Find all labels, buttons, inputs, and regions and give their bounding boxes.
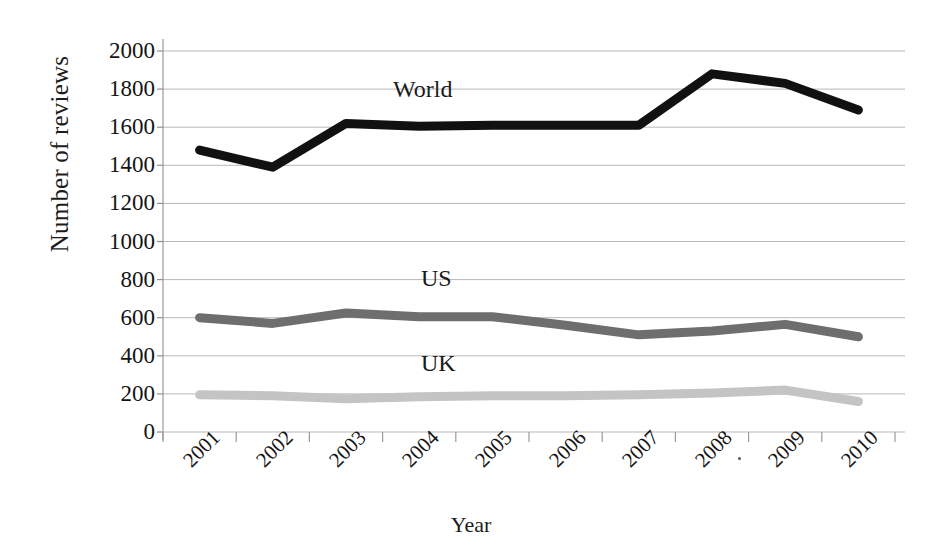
plot-area <box>0 0 942 560</box>
artifact-speck <box>738 457 741 460</box>
series-label-world: World <box>393 76 452 103</box>
x-axis-title: Year <box>0 512 942 538</box>
series-label-us: US <box>421 265 452 292</box>
line-chart: Number of reviews 2000180016001400120010… <box>0 0 942 560</box>
series-line-us <box>200 313 859 337</box>
series-line-uk <box>200 390 859 401</box>
series-label-uk: UK <box>421 350 456 377</box>
series-line-world <box>200 74 859 167</box>
